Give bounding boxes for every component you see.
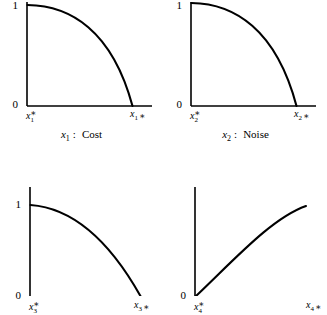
x-right-star-icon: ∗ <box>139 111 145 121</box>
curve-path-4 <box>196 206 307 296</box>
x-right-star-icon: ∗ <box>315 302 321 312</box>
x-right-index: 3 <box>138 305 142 313</box>
x-axis-left-label: x1∗ <box>26 108 36 126</box>
x-right-index: 1 <box>134 114 138 122</box>
y-axis-zero-label: 0 <box>9 290 21 301</box>
x-axis-right-label: x3∗ <box>134 299 149 315</box>
y-axis-zero-label: 0 <box>6 99 18 110</box>
plot-svg-4 <box>164 178 327 296</box>
y-axis-top-label: 1 <box>9 199 21 210</box>
plot-panel-cost: 1 0 x1∗ x1∗ x1:Cost <box>0 0 163 157</box>
plot-panel-noise: 1 0 x2∗ x2∗ x2:Noise <box>164 0 327 157</box>
x-axis-right-label: x1∗ <box>130 108 145 124</box>
plot-panel-x4: 0 x4∗ x4∗ <box>164 178 327 315</box>
caption-name-1: Cost <box>82 128 102 140</box>
plot-svg-2 <box>164 0 327 118</box>
curve-path-1 <box>28 5 133 106</box>
caption-var-index-1: 1 <box>66 134 70 143</box>
caption-name-2: Noise <box>243 128 269 140</box>
caption-var-index-2: 2 <box>227 134 231 143</box>
y-axis-top-label: 1 <box>170 0 182 11</box>
y-axis-top-label: 1 <box>6 0 18 11</box>
curve-path-2 <box>192 3 297 106</box>
plot-panel-x3: 1 0 x3∗ x3∗ <box>0 178 163 315</box>
caption-var-1: x1 <box>61 128 70 140</box>
y-axis-zero-label: 0 <box>174 290 186 301</box>
membership-functions-figure: 1 0 x1∗ x1∗ x1:Cost 1 0 x2∗ x2∗ <box>0 0 327 315</box>
x-right-index: 2 <box>298 114 302 122</box>
x-left-star-icon: ∗ <box>194 108 200 118</box>
x-axis-right-label: x2∗ <box>294 108 309 124</box>
plot-area-2 <box>164 0 327 118</box>
plot-area-1 <box>0 0 163 118</box>
x-left-star-icon: ∗ <box>30 108 36 118</box>
plot-svg-3 <box>0 178 163 296</box>
plot-area-3 <box>0 178 163 296</box>
plot-area-4 <box>164 178 327 296</box>
caption-var-2: x2 <box>222 128 231 140</box>
x-axis-left-label: x2∗ <box>190 108 200 126</box>
x-left-star-icon: ∗ <box>198 299 204 309</box>
x-right-star-icon: ∗ <box>143 302 149 312</box>
curve-path-3 <box>31 205 142 296</box>
panel-caption-1: x1:Cost <box>0 128 163 145</box>
plot-svg-1 <box>0 0 163 118</box>
x-axis-left-label: x4∗ <box>194 299 204 315</box>
x-axis-right-label: x4∗ <box>306 299 321 315</box>
x-axis-left-label: x3∗ <box>29 299 39 315</box>
panel-caption-2: x2:Noise <box>164 128 327 145</box>
y-axis-zero-label: 0 <box>170 99 182 110</box>
x-right-index: 4 <box>310 305 314 313</box>
x-left-star-icon: ∗ <box>33 299 39 309</box>
caption-colon-1: : <box>73 128 76 140</box>
caption-colon-2: : <box>234 128 237 140</box>
x-right-star-icon: ∗ <box>303 111 309 121</box>
